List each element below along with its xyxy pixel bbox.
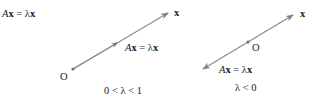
- right-condition-label: λ < 0: [235, 82, 257, 94]
- right-vector-x: [248, 15, 293, 42]
- equals-sign: =: [137, 42, 148, 53]
- left-x-label: x: [174, 7, 179, 19]
- equals-sign: =: [14, 8, 25, 19]
- left-ax-label: Ax = λx: [125, 42, 158, 54]
- vector-symbol: x: [247, 64, 252, 75]
- right-origin-dot: [246, 40, 249, 43]
- eigenvector-figure: Ax = λx x Ax = λx O 0 < λ < 1 x O Ax = λ…: [0, 0, 311, 104]
- vector-symbol: x: [30, 8, 35, 19]
- left-condition-label: 0 < λ < 1: [104, 85, 142, 97]
- right-x-label: x: [300, 8, 305, 20]
- left-origin-label: O: [60, 71, 68, 83]
- right-origin-label: O: [252, 42, 260, 54]
- left-origin-dot: [71, 67, 74, 70]
- figure-title-equation: Ax = λx: [2, 8, 35, 20]
- right-ax-label: Ax = λx: [219, 64, 252, 76]
- vector-symbol: x: [153, 42, 158, 53]
- equals-sign: =: [231, 64, 242, 75]
- left-vector-ax: [73, 44, 116, 69]
